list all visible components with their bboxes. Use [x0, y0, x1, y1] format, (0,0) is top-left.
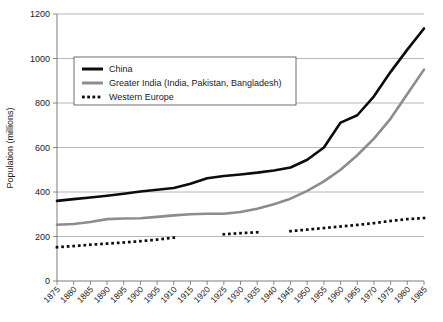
data-dot — [306, 228, 309, 231]
data-dot — [139, 240, 142, 243]
gridlines-group — [57, 14, 424, 237]
data-dot — [356, 224, 359, 227]
x-axis-group: 1875188018851890189519001905191019151920… — [41, 281, 429, 305]
x-tick-label: 1935 — [242, 284, 263, 305]
data-dot — [384, 220, 387, 223]
x-tick-label: 1905 — [142, 284, 163, 305]
data-dot — [67, 245, 70, 248]
data-dot — [111, 242, 114, 245]
data-dot — [395, 219, 398, 222]
chart-canvas: 020040060080010001200 187518801885189018… — [0, 0, 443, 322]
chart-legend: ChinaGreater India (India, Pakistan, Ban… — [74, 57, 296, 105]
data-dot — [250, 231, 253, 234]
data-dot — [389, 220, 392, 223]
data-dot — [400, 218, 403, 221]
data-dot — [150, 239, 153, 242]
data-dot — [323, 227, 326, 230]
x-tick-label: 1965 — [342, 284, 363, 305]
data-dot — [167, 237, 170, 240]
data-dot — [300, 229, 303, 232]
x-tick-label: 1915 — [175, 284, 196, 305]
data-dot — [100, 243, 103, 246]
data-dot — [289, 230, 292, 233]
data-dot — [361, 223, 364, 226]
x-tick-label: 1975 — [375, 284, 396, 305]
population-line-chart: 020040060080010001200 187518801885189018… — [0, 0, 443, 322]
x-tick-label: 1950 — [292, 284, 313, 305]
x-tick-label: 1920 — [192, 284, 213, 305]
x-tick-label: 1940 — [258, 284, 279, 305]
data-dot — [156, 238, 159, 241]
data-dot — [350, 224, 353, 227]
data-dot — [145, 239, 148, 242]
data-dot — [106, 242, 109, 245]
data-dot — [133, 240, 136, 243]
data-dot — [423, 217, 426, 220]
data-dot — [72, 245, 75, 248]
legend-label: Greater India (India, Pakistan, Banglade… — [109, 78, 282, 88]
data-dot — [161, 238, 164, 241]
data-dot — [367, 222, 370, 225]
legend-swatch-dotted — [82, 96, 85, 99]
x-tick-label: 1945 — [275, 284, 296, 305]
y-tick-label: 600 — [35, 143, 50, 153]
data-dot — [239, 232, 242, 235]
data-dot — [117, 242, 120, 245]
data-dot — [317, 227, 320, 230]
data-dot — [228, 233, 231, 236]
series-1 — [57, 28, 424, 200]
data-dot — [89, 243, 92, 246]
data-dot — [122, 241, 125, 244]
x-tick-label: 1875 — [41, 284, 62, 305]
y-axis-group: 020040060080010001200 — [30, 9, 57, 286]
x-tick-label: 1880 — [58, 284, 79, 305]
series-3 — [56, 217, 426, 249]
y-axis-title-group: Population (millions) — [5, 107, 15, 188]
y-tick-label: 400 — [35, 187, 50, 197]
y-tick-label: 200 — [35, 232, 50, 242]
data-dot — [328, 226, 331, 229]
x-tick-label: 1925 — [208, 284, 229, 305]
x-tick-label: 1980 — [392, 284, 413, 305]
y-tick-label: 0 — [45, 276, 50, 286]
data-dot — [245, 232, 248, 235]
series-line — [57, 28, 424, 200]
legend-item-2[interactable]: Greater India (India, Pakistan, Banglade… — [82, 78, 282, 88]
data-dot — [234, 232, 237, 235]
legend-swatch-dotted — [92, 96, 95, 99]
data-dot — [78, 244, 81, 247]
y-tick-label: 1200 — [30, 9, 50, 19]
x-tick-label: 1985 — [408, 284, 429, 305]
legend-label: China — [109, 64, 133, 74]
x-tick-label: 1900 — [125, 284, 146, 305]
x-tick-label: 1955 — [308, 284, 329, 305]
data-dot — [83, 244, 86, 247]
y-tick-label: 1000 — [30, 54, 50, 64]
x-tick-label: 1930 — [225, 284, 246, 305]
data-dot — [222, 233, 225, 236]
data-dot — [345, 225, 348, 228]
data-dot — [61, 245, 64, 248]
y-tick-label: 800 — [35, 98, 50, 108]
data-dot — [295, 229, 298, 232]
legend-label: Western Europe — [109, 92, 174, 102]
data-dot — [373, 222, 376, 225]
x-tick-label: 1960 — [325, 284, 346, 305]
x-tick-label: 1890 — [92, 284, 113, 305]
x-tick-label: 1895 — [108, 284, 129, 305]
x-tick-label: 1970 — [358, 284, 379, 305]
data-dot — [172, 236, 175, 239]
data-dot — [406, 218, 409, 221]
legend-swatch-dotted — [87, 96, 90, 99]
data-dot — [417, 217, 420, 220]
data-dot — [56, 246, 59, 249]
data-dot — [256, 231, 259, 234]
data-dot — [412, 217, 415, 220]
data-dot — [334, 226, 337, 229]
legend-swatch-dotted — [98, 96, 101, 99]
data-dot — [311, 228, 314, 231]
data-dot — [95, 243, 98, 246]
y-axis-title: Population (millions) — [5, 107, 15, 188]
x-tick-label: 1885 — [75, 284, 96, 305]
data-dot — [339, 225, 342, 228]
